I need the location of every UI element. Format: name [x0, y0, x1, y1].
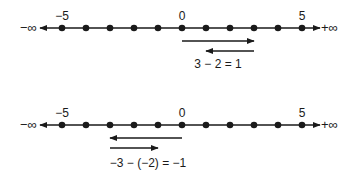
equation-bottom: −3 − (−2) = −1 — [110, 156, 187, 170]
point-neg2 — [131, 122, 138, 129]
point-neg2 — [131, 25, 138, 32]
tick-label-5: 5 — [299, 9, 306, 23]
neg-infinity-label: −∞ — [20, 20, 37, 35]
point-2 — [227, 25, 234, 32]
pos-infinity-label: +∞ — [321, 20, 338, 35]
number-line-top: −∞ +∞ −5 0 5 3 − 2 = 1 — [20, 9, 338, 71]
point-3 — [251, 122, 258, 129]
point-neg1 — [155, 25, 162, 32]
point-5 — [299, 122, 306, 129]
tick-label-5: 5 — [299, 106, 306, 120]
point-neg5 — [59, 25, 66, 32]
point-3 — [251, 25, 258, 32]
point-2 — [227, 122, 234, 129]
point-neg5 — [59, 122, 66, 129]
tick-label-neg5: −5 — [55, 9, 69, 23]
number-line-bottom: −∞ +∞ −5 0 5 −3 − (−2) = −1 — [20, 106, 338, 170]
point-1 — [203, 25, 210, 32]
neg-infinity-label: −∞ — [20, 117, 37, 132]
point-neg4 — [83, 122, 90, 129]
tick-label-0: 0 — [179, 9, 186, 23]
point-1 — [203, 122, 210, 129]
point-0 — [179, 122, 186, 129]
point-0 — [179, 25, 186, 32]
point-neg4 — [83, 25, 90, 32]
point-4 — [275, 122, 282, 129]
number-line-diagram: −∞ +∞ −5 0 5 3 − 2 = 1 −∞ +∞ — [0, 0, 361, 176]
tick-label-0: 0 — [179, 106, 186, 120]
point-4 — [275, 25, 282, 32]
point-neg1 — [155, 122, 162, 129]
pos-infinity-label: +∞ — [321, 117, 338, 132]
point-5 — [299, 25, 306, 32]
point-neg3 — [107, 25, 114, 32]
tick-label-neg5: −5 — [55, 106, 69, 120]
equation-top: 3 − 2 = 1 — [194, 57, 242, 71]
point-neg3 — [107, 122, 114, 129]
